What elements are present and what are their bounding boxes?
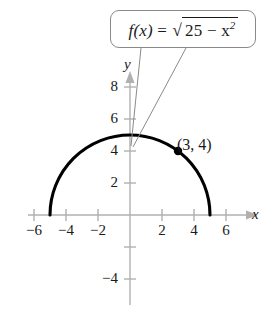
y-tick-label-8: 8 — [98, 78, 118, 95]
radical-group: √25 − x2 — [172, 17, 238, 41]
formula-argument: (x) — [133, 21, 152, 40]
radicand: 25 − x2 — [182, 17, 238, 41]
y-axis-label: y — [124, 56, 131, 73]
x-tick-label--2: −2 — [84, 222, 112, 239]
x-tick-label-6: 6 — [216, 222, 236, 239]
formula-equals: = — [153, 21, 172, 40]
y-tick-label-2: 2 — [98, 174, 118, 191]
function-formula: f(x) = √25 − x2 — [128, 17, 237, 41]
function-graph-figure: f(x) = √25 − x2 y x −6 −4 −2 2 4 6 8 6 4… — [0, 0, 275, 317]
x-tick-label--6: −6 — [20, 222, 48, 239]
radicand-expression: 25 − x — [185, 21, 230, 40]
x-tick-label--4: −4 — [52, 222, 80, 239]
radicand-exponent: 2 — [230, 19, 236, 31]
x-tick-label-2: 2 — [152, 222, 172, 239]
callout-leader-lines — [131, 48, 186, 147]
y-tick-label--4: −4 — [90, 270, 118, 287]
y-tick-label-6: 6 — [98, 110, 118, 127]
function-callout-box: f(x) = √25 − x2 — [110, 10, 256, 48]
y-tick-label-4: 4 — [98, 142, 118, 159]
x-tick-label-4: 4 — [184, 222, 204, 239]
x-axis-label: x — [252, 206, 259, 223]
radical-sign-icon: √ — [173, 21, 183, 40]
data-point-label: (3, 4) — [177, 136, 212, 154]
